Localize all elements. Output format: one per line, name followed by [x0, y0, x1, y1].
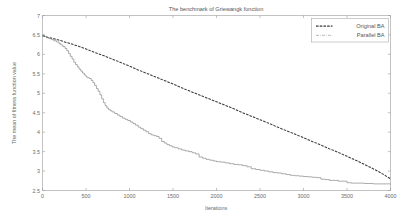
legend-box[interactable] [312, 19, 389, 43]
x-tick-label: 4000 [385, 193, 397, 199]
legend-label-original-ba: Original BA [356, 23, 385, 29]
chart-title: The benchmark of Griewangk function [169, 6, 264, 12]
y-tick-label: 6 [37, 51, 40, 57]
chart-legend[interactable]: Original BAParallel BA [312, 19, 389, 43]
y-tick-label: 7 [37, 13, 40, 19]
x-tick-label: 3000 [298, 193, 310, 199]
y-tick-label: 5.5 [33, 71, 41, 77]
y-tick-label: 3 [37, 168, 40, 174]
x-tick-label: 1000 [124, 193, 136, 199]
x-tick-label: 3500 [341, 193, 353, 199]
y-tick-label: 4.5 [33, 110, 41, 116]
x-axis-label: Iterations [205, 205, 227, 211]
y-tick-label: 4 [37, 129, 40, 135]
x-tick-label: 2000 [211, 193, 223, 199]
series-line-original-ba [43, 36, 391, 179]
x-tick-label: 1500 [167, 193, 179, 199]
y-axis-label: The mean of fitness function value [11, 62, 17, 144]
series-line-parallel-ba [43, 35, 391, 184]
chart-figure: 050010001500200025003000350040002.533.54… [0, 0, 404, 219]
x-tick-label: 0 [41, 193, 44, 199]
legend-label-parallel-ba: Parallel BA [357, 32, 385, 38]
chart-canvas: 050010001500200025003000350040002.533.54… [0, 0, 404, 219]
y-tick-label: 3.5 [33, 149, 41, 155]
y-tick-label: 6.5 [33, 32, 41, 38]
data-series [43, 35, 391, 184]
x-tick-label: 2500 [254, 193, 266, 199]
x-tick-label: 500 [82, 193, 91, 199]
y-tick-label: 2.5 [33, 188, 41, 194]
y-tick-label: 5 [37, 90, 40, 96]
